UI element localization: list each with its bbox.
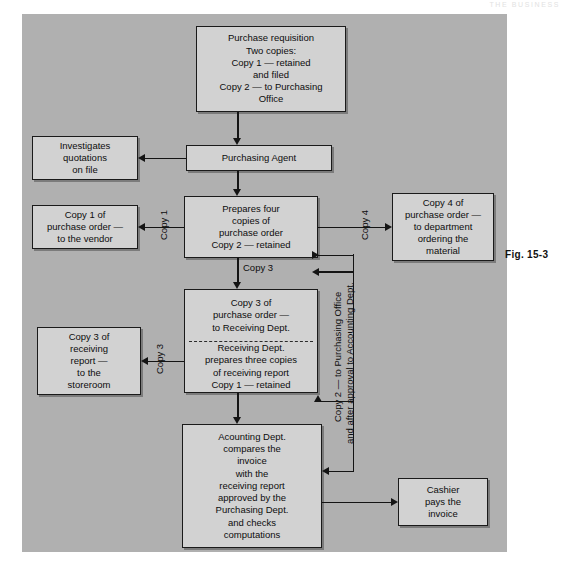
text-line: Purchase requisition [228,32,314,44]
connector-prepares-to-copy3 [237,258,239,282]
text-line: Acounting Dept. [218,431,286,443]
text-line: Copy 2 — to Purchasing [220,81,323,93]
text-line: purchase order — [47,221,123,233]
text-line: Copy 1 of [65,209,106,221]
connector-agent-to-quotations [145,158,186,160]
arrowhead-up [314,395,322,402]
text-line: purchase order — [213,309,289,321]
text-line: computations [224,529,281,541]
box-purchase-requisition: Purchase requisition Two copies: Copy 1 … [196,26,346,112]
text-line: Purchasing Dept. [216,504,289,516]
text-line: Two copies: [246,45,296,57]
connector-agent-to-prepares [237,171,239,189]
divider-dashed [189,341,313,342]
text-line: quotations [63,152,107,164]
text-line: to the vendor [57,233,112,245]
text-line: Copy 2 — retained [211,239,290,251]
arrowhead-right [391,498,398,506]
text-line: to the [77,367,101,379]
text-line: pays the [425,496,461,508]
connector-copy2-stub-top [318,255,354,257]
text-line: Office [259,93,284,105]
diagram-canvas: Purchase requisition Two copies: Copy 1 … [22,14,507,552]
label-copy3-left: Copy 3 [154,344,165,374]
text-line: with the [236,468,269,480]
arrowhead-down [233,189,241,196]
arrowhead-left [322,467,329,475]
text-line: of receiving report [213,367,289,379]
text-line: report — [71,355,108,367]
label-copy2-line1: Copy 2 — to Purchasing Office [332,292,343,422]
text-line: storeroom [68,379,111,391]
text-line: Investigates [60,140,111,152]
text-line: Copy 1 — retained [231,57,310,69]
text-line: copies of [232,215,270,227]
text-line: Prepares four [222,203,280,215]
connector-accounting-to-cashier [322,502,391,504]
text-line: Cashier [427,484,460,496]
text-line: invoice [428,508,458,520]
text-line: to Receiving Dept. [212,322,290,334]
box-copy3-to-storeroom: Copy 3 of receiving report — to the stor… [37,327,141,395]
text-line: and filed [253,69,289,81]
figure-caption: Fig. 15-3 [505,249,548,260]
connector-copy2-vertical-short [353,254,355,272]
text-line: receiving [70,343,108,355]
connector-copy2-stub-bottom [318,271,353,273]
box-accounting-dept: Acounting Dept. compares the invoice wit… [182,424,322,548]
box-investigates-quotations: Investigates quotations on file [32,136,138,180]
text-line: on file [72,164,97,176]
label-copy3-down: Copy 3 [243,262,273,273]
arrowhead-down [233,417,241,424]
arrowhead-left [312,268,319,276]
page-header-faint: THE BUSINESS [489,1,560,8]
box-receiving-dept: Receiving Dept. prepares three copies of… [185,341,317,392]
label-copy4: Copy 4 [359,210,370,240]
text-line: purchase order — [405,209,481,221]
text-line: Copy 1 — retained [211,379,290,391]
text-line: approved by the [218,492,286,504]
text-line: Copy 4 of [423,197,464,209]
text-line: material [426,245,460,257]
text-line: ordering the [418,233,469,245]
arrowhead-down [233,138,241,145]
arrowhead-left [138,154,145,162]
box-copy3-to-receiving: Copy 3 of purchase order — to Receiving … [185,290,317,341]
arrowhead-left [138,223,145,231]
box-prepares-four-copies: Prepares four copies of purchase order C… [184,196,318,258]
label-copy2-line2: and after approval to Accounting Dept. [344,282,355,444]
box-cashier: Cashier pays the invoice [398,478,488,526]
text-line: receiving report [219,480,284,492]
text-line: to department [414,221,473,233]
connector-requisition-to-agent [237,112,239,138]
text-line: Copy 3 of [69,331,110,343]
box-copy4-to-department: Copy 4 of purchase order — to department… [392,193,494,261]
text-line: Purchasing Agent [222,152,296,164]
connector-copy2-to-accounting [329,471,353,473]
box-copy3-and-receiving-dept: Copy 3 of purchase order — to Receiving … [184,289,318,393]
box-copy1-to-vendor: Copy 1 of purchase order — to the vendor [32,205,138,249]
text-line: invoice [237,455,267,467]
arrowhead-right [312,251,319,259]
text-line: compares the [223,443,281,455]
text-line: Receiving Dept. [217,342,284,354]
connector-receiving-to-accounting [237,393,239,417]
text-line: Copy 3 of [231,297,272,309]
text-line: prepares three copies [205,354,297,366]
arrowhead-right [385,223,392,231]
box-purchasing-agent: Purchasing Agent [186,145,332,171]
text-line: and checks [228,517,276,529]
text-line: purchase order [219,227,283,239]
label-copy1: Copy 1 [158,210,169,240]
arrowhead-left [141,357,148,365]
arrowhead-down [233,282,241,289]
connector-prepares-to-copy4 [318,227,385,229]
